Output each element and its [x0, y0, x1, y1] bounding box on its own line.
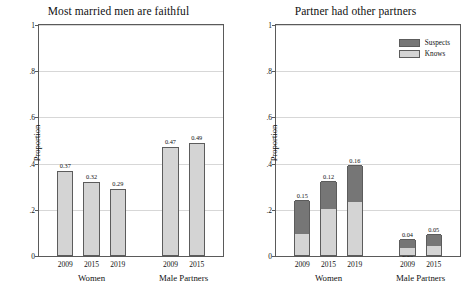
bar[interactable]: [162, 147, 178, 256]
y-tick-mark: [272, 71, 276, 72]
legend-item-suspects: Suspects: [399, 39, 450, 47]
x-tick-label: 2015: [84, 260, 99, 269]
y-tick-mark: [35, 25, 39, 26]
x-group-label: Women: [78, 273, 105, 283]
bar-value-label: 0.47: [165, 138, 176, 145]
chart-panel-left: Most married men are faithful 0.2.4.6.81…: [0, 0, 237, 301]
bar[interactable]: [320, 182, 336, 256]
bar-value-label-suspects: 0.16: [349, 157, 360, 164]
legend-swatch-suspects-icon: [399, 39, 420, 47]
y-tick-mark: [35, 164, 39, 165]
legend-label-suspects: Suspects: [425, 39, 450, 47]
y-tick-label: 0: [31, 252, 35, 261]
chart-panel-right: Partner had other partners 0.2.4.6.810.0…: [237, 0, 474, 301]
gridline: [276, 25, 460, 26]
y-tick-mark: [272, 210, 276, 211]
y-axis-title-right: Proportion: [269, 125, 279, 161]
bar-value-label-suspects: 0.15: [297, 192, 308, 199]
gridline: [39, 71, 223, 72]
gridline: [276, 71, 460, 72]
y-tick-label: 1: [31, 21, 35, 30]
y-tick-label: .2: [29, 205, 35, 214]
bar[interactable]: [399, 240, 415, 256]
y-tick-label: .8: [29, 67, 35, 76]
x-group-label: Male Partners: [159, 273, 208, 283]
bar-value-label-suspects: 0.12: [323, 173, 334, 180]
chart-title-right: Partner had other partners: [237, 5, 474, 17]
bar[interactable]: [426, 235, 442, 256]
bar[interactable]: [83, 182, 99, 256]
y-tick-label: .2: [266, 205, 272, 214]
bar[interactable]: [57, 171, 73, 256]
y-tick-mark: [272, 117, 276, 118]
bar-segment-knows: [348, 202, 362, 255]
bar-value-label-suspects: 0.05: [428, 226, 439, 233]
x-tick-label: 2015: [426, 260, 441, 269]
bar-segment-suspects: [400, 239, 414, 248]
gridline: [276, 117, 460, 118]
legend-swatch-knows-icon: [399, 50, 420, 58]
plot-area-right: 0.2.4.6.810.090.1520090.200.1220150.230.…: [275, 24, 461, 257]
y-tick-label: 0: [268, 252, 272, 261]
bar[interactable]: [294, 201, 310, 256]
y-tick-mark: [35, 256, 39, 257]
legend: Suspects Knows: [399, 39, 450, 61]
x-tick-label: 2015: [321, 260, 336, 269]
x-group-label: Male Partners: [396, 273, 445, 283]
y-tick-mark: [35, 117, 39, 118]
bar-segment-suspects: [348, 165, 362, 202]
y-tick-label: .6: [29, 113, 35, 122]
x-tick-label: 2019: [347, 260, 362, 269]
y-tick-mark: [272, 256, 276, 257]
bar-segment-knows: [400, 248, 414, 255]
bar-segment-knows: [295, 234, 309, 255]
bar[interactable]: [189, 143, 205, 256]
bar-segment-suspects: [427, 234, 441, 246]
legend-label-knows: Knows: [425, 50, 445, 58]
bar-segment-knows: [321, 209, 335, 255]
y-tick-mark: [272, 164, 276, 165]
x-tick-label: 2009: [400, 260, 415, 269]
y-axis-title-left: Proportion: [32, 125, 42, 161]
bar-value-label: 0.37: [60, 162, 71, 169]
chart-title-left: Most married men are faithful: [0, 5, 237, 17]
y-tick-label: .8: [266, 67, 272, 76]
y-tick-mark: [272, 25, 276, 26]
x-tick-label: 2015: [189, 260, 204, 269]
gridline: [39, 25, 223, 26]
y-tick-label: 1: [268, 21, 272, 30]
bar[interactable]: [110, 189, 126, 256]
bar-segment-suspects: [321, 181, 335, 209]
bar-segment-knows: [427, 246, 441, 255]
y-tick-mark: [35, 210, 39, 211]
bar-value-label: 0.32: [86, 173, 97, 180]
x-tick-label: 2009: [58, 260, 73, 269]
x-tick-label: 2009: [163, 260, 178, 269]
x-tick-label: 2009: [295, 260, 310, 269]
bar-value-label: 0.49: [191, 134, 202, 141]
y-tick-mark: [35, 71, 39, 72]
bar-segment-suspects: [295, 200, 309, 235]
plot-area-left: 0.2.4.6.810.3720090.3220150.292019Women0…: [38, 24, 224, 257]
bar-value-label: 0.29: [112, 180, 123, 187]
bar[interactable]: [347, 166, 363, 256]
legend-item-knows: Knows: [399, 50, 450, 58]
x-tick-label: 2019: [110, 260, 125, 269]
y-tick-label: .6: [266, 113, 272, 122]
figure-canvas: Most married men are faithful 0.2.4.6.81…: [0, 0, 474, 301]
x-group-label: Women: [315, 273, 342, 283]
gridline: [276, 164, 460, 165]
gridline: [39, 117, 223, 118]
bar-value-label-suspects: 0.04: [402, 231, 413, 238]
